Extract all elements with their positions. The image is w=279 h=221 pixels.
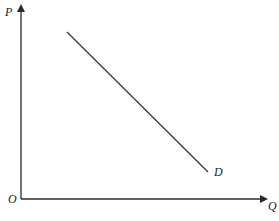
demand-curve-chart: P O Q D [0, 0, 279, 221]
chart-plot-area [0, 0, 279, 221]
y-axis-label: P [5, 6, 12, 18]
demand-curve-label: D [214, 166, 223, 178]
x-axis-label: Q [268, 200, 277, 212]
origin-label: O [8, 193, 17, 205]
demand-curve [67, 32, 208, 172]
